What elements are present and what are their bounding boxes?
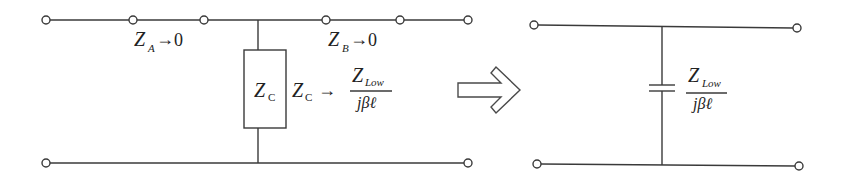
zb-label: Z B xyxy=(328,28,349,54)
terminal-za-left xyxy=(129,16,137,24)
terminal-top-left xyxy=(42,16,50,24)
left-fraction-num: Z xyxy=(352,64,364,86)
terminal-bottom-left xyxy=(42,159,50,167)
right-terminal-bottom-right xyxy=(795,162,803,170)
left-fraction-num-sub: Low xyxy=(364,76,385,88)
right-fraction-den: jβℓ xyxy=(691,95,712,113)
zc-arrow-icon: → xyxy=(318,80,336,100)
za-limit: 0 xyxy=(174,30,183,50)
right-fraction-num: Z xyxy=(688,64,700,86)
za-label: Z A xyxy=(134,28,155,54)
zc-label: Z xyxy=(292,79,304,101)
zc-box-label: Z xyxy=(254,79,266,101)
left-fraction-den: jβℓ xyxy=(355,94,376,112)
zb-arrow-icon: → xyxy=(350,29,368,49)
terminal-za-right xyxy=(200,16,208,24)
right-terminal-bottom-left xyxy=(533,160,541,168)
left-circuit: Z A → 0 Z B → 0 Z C Z C → Z Low jβℓ xyxy=(42,16,472,167)
terminal-zb-right xyxy=(396,16,404,24)
right-bottom-wire xyxy=(541,164,795,166)
zb-limit: 0 xyxy=(368,30,377,50)
right-top-wire xyxy=(538,25,793,28)
circuit-diagram: Z A → 0 Z B → 0 Z C Z C → Z Low jβℓ xyxy=(0,0,842,178)
terminal-zb-left xyxy=(322,16,330,24)
right-terminal-top-left xyxy=(530,21,538,29)
right-terminal-top-right xyxy=(793,24,801,32)
terminal-top-right xyxy=(464,16,472,24)
zc-label-sub: C xyxy=(305,91,312,103)
za-arrow-icon: → xyxy=(156,29,174,49)
zc-box-sub: C xyxy=(268,91,275,103)
transform-arrow-icon xyxy=(458,67,520,113)
right-fraction-num-sub: Low xyxy=(701,77,722,89)
terminal-bottom-right xyxy=(464,159,472,167)
right-circuit: Z Low jβℓ xyxy=(530,21,803,170)
